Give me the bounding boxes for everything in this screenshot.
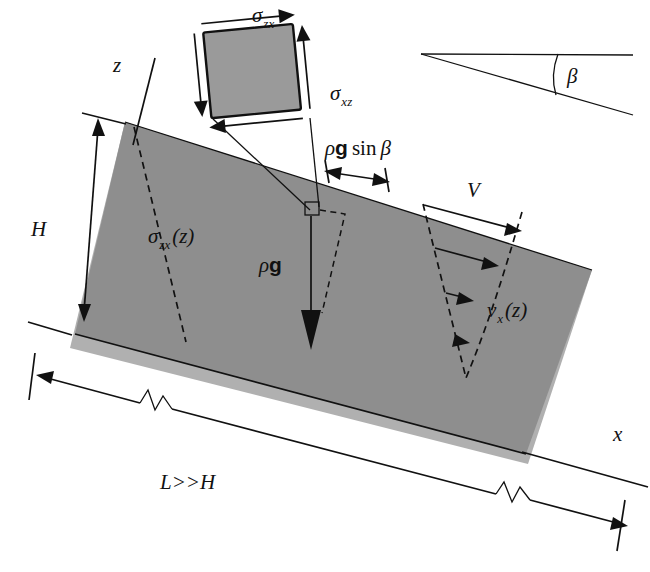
driving-stress-sin: sin xyxy=(352,136,377,160)
length-arrowhead-left xyxy=(36,371,54,384)
length-dimension-line-left xyxy=(47,378,140,403)
stress-arrow-right-head xyxy=(295,24,310,41)
element-stress-right-subscript: xz xyxy=(340,94,352,109)
inclined-slab-diagram: z x H xyxy=(0,0,650,572)
stress-arrow-bottom-line xyxy=(221,118,303,126)
velocity-argument: (z) xyxy=(505,298,527,322)
height-arrowhead-top xyxy=(92,118,105,136)
driving-stress-beta: β xyxy=(379,136,391,160)
stress-element-square xyxy=(203,24,301,118)
driving-stress-rho: ρ xyxy=(324,136,335,160)
velocity-symbol: v xyxy=(487,298,497,322)
height-tick-top xyxy=(82,113,126,124)
x-axis-label: x xyxy=(612,422,623,446)
z-axis-label: z xyxy=(112,53,121,77)
beta-angle-arc xyxy=(553,54,558,95)
body-force-rho: ρ xyxy=(258,253,269,277)
surface-velocity-label: V xyxy=(467,178,482,202)
beta-label: β xyxy=(566,64,578,88)
beta-horizontal-line xyxy=(421,54,633,55)
stress-arrow-bottom-head xyxy=(209,119,226,134)
length-label: L>>H xyxy=(159,470,217,494)
height-label: H xyxy=(30,217,48,241)
shear-stress-symbol: σ xyxy=(148,224,160,248)
stress-arrow-top-head xyxy=(278,8,295,23)
velocity-arrow-1-head xyxy=(504,223,522,236)
driving-stress-group: ρgsinβ xyxy=(324,136,391,192)
velocity-subscript: x xyxy=(496,311,503,326)
height-tick-bottom xyxy=(28,322,72,335)
length-break-symbol-left xyxy=(140,390,172,410)
x-axis-group: x xyxy=(522,422,648,487)
length-arrowhead-right xyxy=(610,517,628,530)
shear-stress-subscript: zx xyxy=(158,237,170,252)
element-stress-top-label: σzx xyxy=(252,3,274,31)
figure-root: z x H xyxy=(0,0,650,572)
element-stress-right-label: σxz xyxy=(330,81,352,109)
stress-arrow-right-line xyxy=(303,37,310,109)
beta-incline-line xyxy=(421,54,633,115)
velocity-profile-label: vx(z) xyxy=(487,298,527,326)
driving-stress-label: ρgsinβ xyxy=(324,136,391,160)
driving-stress-g: g xyxy=(335,136,348,159)
length-dimension-line-right xyxy=(530,500,617,523)
x-axis-line xyxy=(522,452,648,487)
body-force-label: ρg xyxy=(258,253,282,277)
element-stress-top-symbol: σ xyxy=(252,3,264,27)
element-stress-right-symbol: σ xyxy=(330,81,342,105)
shear-stress-argument: (z) xyxy=(172,224,194,248)
stress-arrow-left-head xyxy=(194,100,209,117)
body-force-g: g xyxy=(269,253,282,276)
stress-arrow-left-line xyxy=(194,33,201,105)
element-stress-top-subscript: zx xyxy=(262,16,274,31)
length-break-symbol-right xyxy=(496,482,530,502)
length-tick-left xyxy=(29,353,35,400)
incline-angle-inset: β xyxy=(421,54,633,115)
